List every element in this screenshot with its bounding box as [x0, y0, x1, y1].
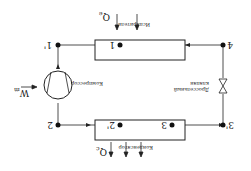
valve-label-2: клапан: [189, 81, 209, 87]
throttle-valve-icon: [219, 79, 227, 93]
label-2-prime: 2': [107, 120, 115, 130]
condenser-label: Конденсатор: [119, 144, 153, 151]
refrigeration-cycle-diagram: 1' 1 2 2' 3 3' 4 Испаритель Конденсатор …: [0, 0, 251, 171]
label-1: 1: [109, 40, 115, 50]
q-cond-label: Qc: [96, 146, 107, 157]
label-3: 3: [161, 120, 167, 130]
q-evap-label: Qe: [99, 11, 110, 22]
label-2: 2: [47, 120, 53, 130]
diagram-canvas: 1' 1 2 2' 3 3' 4 Испаритель Конденсатор …: [0, 0, 251, 171]
compressor-icon: [44, 71, 72, 99]
compressor-label: Компрессор: [71, 80, 103, 87]
evaporator-label: Испаритель: [118, 21, 150, 28]
label-1-prime: 1': [44, 40, 52, 50]
valve-label-1: Дроссельный: [173, 86, 209, 93]
label-3-prime: 3': [226, 120, 234, 130]
label-4: 4: [227, 40, 233, 50]
work-label: Wm: [14, 87, 29, 98]
